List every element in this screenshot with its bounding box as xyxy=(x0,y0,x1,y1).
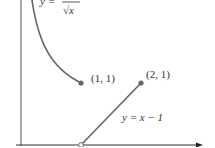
curve1-lhs: y = xyxy=(39,0,55,7)
x-axis-arrow-icon xyxy=(196,143,203,148)
function-graph: (1, 1) (2, 1) y = x − 1 y = 1 √x xyxy=(0,0,215,147)
open-point-1-0 xyxy=(79,143,84,147)
label-curve-reciprocal-sqrt: y = 1 √x xyxy=(39,0,80,16)
point-1-1 xyxy=(78,80,83,85)
label-line-x-minus-1: y = x − 1 xyxy=(121,111,163,123)
curve1-denominator: √x xyxy=(63,4,74,16)
label-point-2-1: (2, 1) xyxy=(146,68,170,81)
label-point-1-1: (1, 1) xyxy=(91,72,115,85)
point-2-1 xyxy=(138,80,143,85)
